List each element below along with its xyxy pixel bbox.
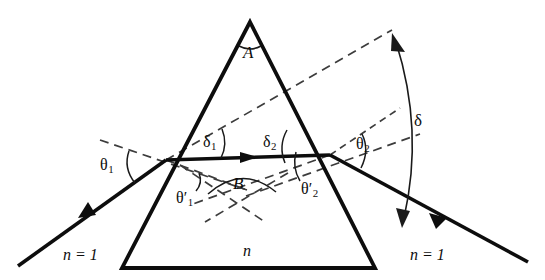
internal-refracted-ray	[166, 152, 330, 163]
left-medium-index-label: n = 1	[63, 247, 98, 263]
theta1-prime-symbol: θ	[176, 189, 184, 206]
right-medium-index-label: n = 1	[410, 247, 445, 263]
delta-label: δ	[414, 112, 422, 129]
delta2-symbol: δ	[263, 133, 271, 150]
prism-index-label: n	[243, 243, 251, 259]
apex-angle-label: A	[243, 44, 253, 61]
theta2-symbol: θ	[356, 135, 364, 152]
theta2-prime-subscript: 2	[313, 187, 318, 199]
delta1-symbol: δ	[203, 133, 211, 150]
theta1-subscript: 1	[108, 163, 113, 175]
delta1-subscript: 1	[211, 140, 216, 152]
theta1-label: θ1	[100, 157, 114, 175]
delta1-angle-arc	[221, 129, 225, 158]
theta1-prime-mark: ′	[184, 189, 188, 206]
delta2-subscript: 2	[271, 140, 276, 152]
delta1-label: δ1	[203, 134, 216, 152]
theta2-label: θ2	[356, 136, 370, 154]
theta2-subscript: 2	[364, 142, 369, 154]
theta1-prime-subscript: 1	[188, 196, 193, 208]
theta2-prime-mark: ′	[309, 180, 313, 197]
theta1-symbol: θ	[100, 156, 108, 173]
theta2-prime-symbol: θ	[301, 180, 309, 197]
theta1-angle-arc	[127, 151, 135, 183]
prism-refraction-figure: A B n n = 1 n = 1 θ1 θ′1 θ2 θ′2 δ1 δ2 δ	[0, 0, 545, 280]
delta-symbol: δ	[414, 111, 422, 130]
theta1-prime-label: θ′1	[176, 190, 193, 208]
delta2-label: δ2	[263, 134, 276, 152]
theta2-prime-label: θ′2	[301, 181, 318, 199]
internal-angle-label: B	[233, 175, 243, 192]
